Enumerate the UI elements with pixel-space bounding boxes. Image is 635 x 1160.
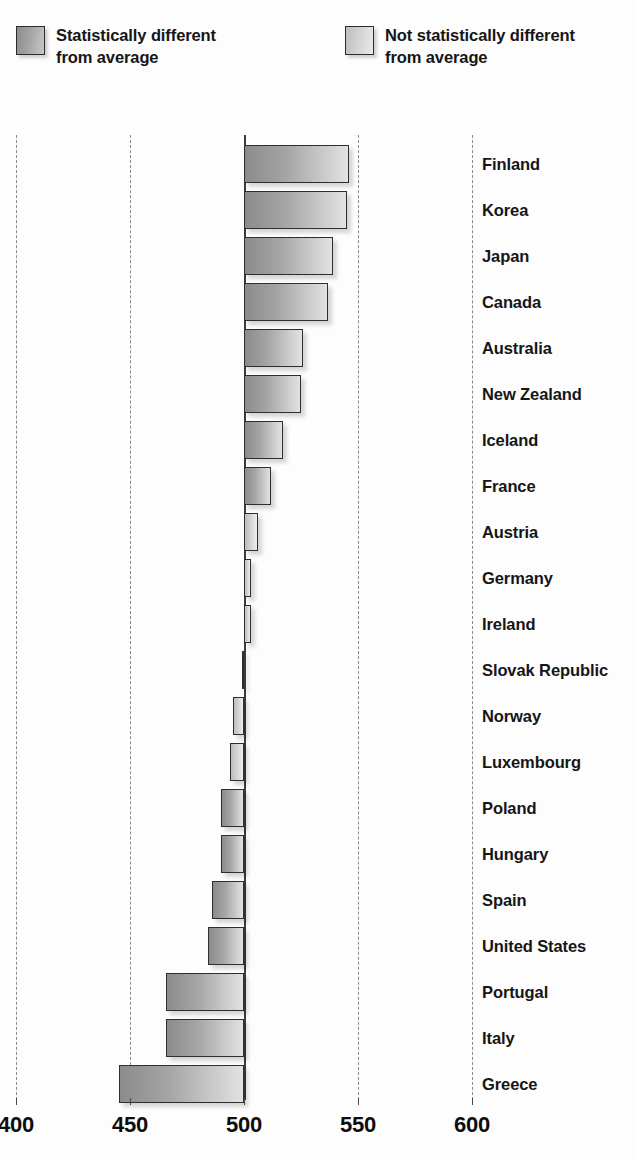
bar[interactable] <box>244 559 251 597</box>
x-tick-label: 550 <box>340 1112 376 1138</box>
category-label: France <box>482 463 536 509</box>
bar-row: Portugal <box>0 969 635 1015</box>
bar-row: Greece <box>0 1061 635 1107</box>
bar-row: Japan <box>0 233 635 279</box>
category-label: Hungary <box>482 831 548 877</box>
bar-series: FinlandKoreaJapanCanadaAustraliaNew Zeal… <box>0 135 635 1110</box>
bar-row: Poland <box>0 785 635 831</box>
bar-row: New Zealand <box>0 371 635 417</box>
chart-legend: Statistically different from average Not… <box>0 0 635 110</box>
bar[interactable] <box>244 329 303 367</box>
x-tick-label: 400 <box>0 1112 34 1138</box>
x-axis: 400450500550600 <box>0 1104 635 1160</box>
bar[interactable] <box>221 789 244 827</box>
category-label: New Zealand <box>482 371 582 417</box>
bar[interactable] <box>244 513 258 551</box>
bar-row: Slovak Republic <box>0 647 635 693</box>
bar[interactable] <box>244 375 301 413</box>
category-label: Greece <box>482 1061 537 1107</box>
bar[interactable] <box>244 605 251 643</box>
category-label: Australia <box>482 325 552 371</box>
category-label: Austria <box>482 509 538 555</box>
bar[interactable] <box>244 191 347 229</box>
x-tick-mark <box>244 1098 245 1105</box>
bar-row: France <box>0 463 635 509</box>
legend-item-label: Statistically different from average <box>56 25 216 69</box>
category-label: Norway <box>482 693 541 739</box>
legend-item-statistically-different: Statistically different from average <box>16 25 216 69</box>
x-tick-mark <box>358 1098 359 1105</box>
bar-row: Ireland <box>0 601 635 647</box>
category-label: Korea <box>482 187 528 233</box>
bar-row: Germany <box>0 555 635 601</box>
category-label: United States <box>482 923 586 969</box>
category-label: Italy <box>482 1015 515 1061</box>
bar[interactable] <box>244 467 271 505</box>
bar[interactable] <box>221 835 244 873</box>
legend-item-not-statistically-different: Not statistically different from average <box>345 25 575 69</box>
x-tick-mark <box>130 1098 131 1105</box>
bar-row: Finland <box>0 141 635 187</box>
category-label: Portugal <box>482 969 548 1015</box>
category-label: Ireland <box>482 601 535 647</box>
bar[interactable] <box>244 145 349 183</box>
bar[interactable] <box>244 237 333 275</box>
category-label: Canada <box>482 279 541 325</box>
chart-page: Statistically different from average Not… <box>0 0 635 1160</box>
category-label: Poland <box>482 785 536 831</box>
x-tick-label: 500 <box>226 1112 262 1138</box>
bar[interactable] <box>166 973 244 1011</box>
x-tick-mark <box>16 1098 17 1105</box>
bar-row: Italy <box>0 1015 635 1061</box>
bar[interactable] <box>233 697 244 735</box>
bar-row: Luxembourg <box>0 739 635 785</box>
category-label: Luxembourg <box>482 739 581 785</box>
bar-row: Korea <box>0 187 635 233</box>
x-tick-label: 450 <box>112 1112 148 1138</box>
bar-row: Iceland <box>0 417 635 463</box>
category-label: Japan <box>482 233 529 279</box>
x-tick-label: 600 <box>454 1112 490 1138</box>
bar-row: Austria <box>0 509 635 555</box>
bar-row: Canada <box>0 279 635 325</box>
category-label: Slovak Republic <box>482 647 608 693</box>
bar[interactable] <box>212 881 244 919</box>
legend-swatch-icon <box>345 26 374 55</box>
legend-item-label: Not statistically different from average <box>385 25 575 69</box>
bar-row: Australia <box>0 325 635 371</box>
x-tick-mark <box>472 1098 473 1105</box>
legend-swatch-icon <box>16 26 45 55</box>
bar-row: United States <box>0 923 635 969</box>
bar[interactable] <box>119 1065 244 1103</box>
bar[interactable] <box>208 927 244 965</box>
bar[interactable] <box>242 651 244 689</box>
bar-row: Spain <box>0 877 635 923</box>
bar-row: Norway <box>0 693 635 739</box>
bar[interactable] <box>244 421 283 459</box>
bar-row: Hungary <box>0 831 635 877</box>
category-label: Germany <box>482 555 553 601</box>
bar[interactable] <box>244 283 328 321</box>
plot-area: FinlandKoreaJapanCanadaAustraliaNew Zeal… <box>0 135 635 1110</box>
category-label: Iceland <box>482 417 538 463</box>
category-label: Spain <box>482 877 526 923</box>
bar[interactable] <box>230 743 244 781</box>
category-label: Finland <box>482 141 540 187</box>
bar[interactable] <box>166 1019 244 1057</box>
